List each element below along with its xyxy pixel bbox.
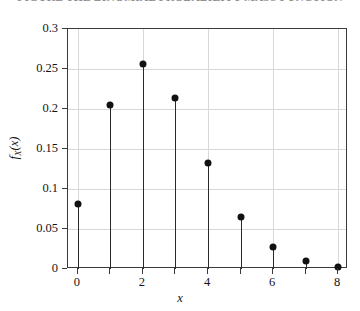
x-axis-tick-mark-minor [240, 268, 241, 274]
y-axis-tick-mark [62, 108, 67, 109]
plot-area [67, 28, 347, 268]
stem-line [175, 98, 176, 269]
y-axis-label-f: f [7, 156, 21, 159]
y-axis-tick-label: 0.05 [36, 222, 58, 235]
x-axis-tick-label: 8 [334, 276, 340, 289]
stem-line [143, 64, 144, 269]
data-point-marker [270, 243, 277, 250]
y-axis-tick-mark [62, 68, 67, 69]
stem-line [110, 105, 111, 269]
data-point-marker [139, 61, 146, 68]
y-axis-label-text: fX(x) [7, 137, 23, 160]
x-axis-tick-mark [337, 268, 338, 274]
x-axis-tick-label: 4 [204, 276, 210, 289]
gridline-vertical [338, 29, 339, 267]
stem-line [208, 163, 209, 269]
data-point-marker [302, 258, 309, 265]
y-axis-tick-label: 0.25 [36, 62, 58, 75]
y-axis-tick-label: 0.1 [42, 182, 58, 195]
gridline-horizontal [68, 69, 346, 70]
y-axis-tick-label: 0.3 [42, 22, 58, 35]
x-axis-tick-mark-minor [109, 268, 110, 274]
y-axis-tick-mark [62, 148, 67, 149]
stem-line [241, 217, 242, 269]
y-axis-tick-label: 0.15 [36, 142, 58, 155]
x-axis-tick-mark [142, 268, 143, 274]
y-axis-tick-mark [62, 28, 67, 29]
stem-line [78, 204, 79, 269]
y-axis-label: fX(x) [4, 108, 26, 188]
data-point-marker [335, 264, 342, 271]
y-axis-label-subscript: X [13, 150, 23, 156]
y-axis-tick-label: 0 [52, 262, 58, 275]
x-axis-tick-mark-minor [305, 268, 306, 274]
data-point-marker [107, 102, 114, 109]
stem-plot-figure: 00.050.10.150.20.250.3 02468 fX(x) x [0, 0, 360, 311]
x-axis-label-text: x [0, 291, 360, 306]
x-axis-tick-label: 0 [74, 276, 80, 289]
x-axis-tick-label: 6 [269, 276, 275, 289]
x-axis-tick-mark [207, 268, 208, 274]
x-axis-tick-mark-minor [174, 268, 175, 274]
y-axis-tick-label: 0.2 [42, 102, 58, 115]
gridline-vertical [273, 29, 274, 267]
data-point-marker [237, 214, 244, 221]
y-axis-label-arg: (x) [7, 137, 21, 151]
data-point-marker [172, 94, 179, 101]
y-axis-tick-mark [62, 188, 67, 189]
x-axis-tick-label: 2 [139, 276, 145, 289]
y-axis-tick-mark [62, 268, 67, 269]
data-point-marker [205, 159, 212, 166]
data-point-marker [74, 201, 81, 208]
x-axis-tick-mark [272, 268, 273, 274]
x-axis-tick-mark [77, 268, 78, 274]
y-axis-tick-mark [62, 228, 67, 229]
